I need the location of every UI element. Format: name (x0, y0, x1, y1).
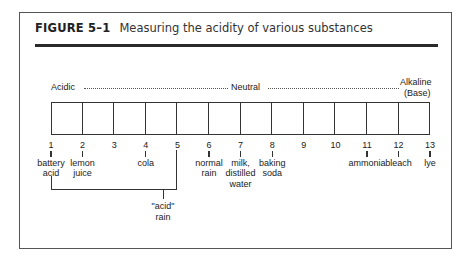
acid-rain-label-line2: rain (133, 212, 193, 223)
tick-mark (366, 151, 367, 157)
ph-tick-13: 13 lye (400, 140, 460, 168)
figure-title: FIGURE 5–1Measuring the acidity of vario… (35, 20, 373, 35)
ph-cell (114, 102, 146, 135)
ph-cell (83, 102, 115, 135)
ph-cell (272, 102, 304, 135)
ph-cell (335, 102, 367, 135)
tick-mark (398, 151, 399, 157)
acidic-dotted-line (84, 88, 228, 89)
ph-cell (51, 102, 83, 135)
ph-cell (209, 102, 241, 135)
ph-cell (241, 102, 273, 135)
tick-mark (240, 151, 241, 157)
ph-cell (399, 102, 431, 135)
alkaline-dotted-line (268, 88, 399, 89)
substance-label: water (211, 179, 271, 190)
acidic-label: Acidic (51, 82, 75, 92)
neutral-label: Neutral (231, 82, 260, 92)
tick-mark (272, 151, 273, 157)
base-label: (Base) (404, 88, 431, 98)
substance-label: lye (400, 158, 460, 169)
ph-cell (146, 102, 178, 135)
ph-cell (177, 102, 209, 135)
figure-caption: Measuring the acidity of various substan… (119, 21, 372, 35)
acid-rain-label: "acid" rain (133, 201, 193, 222)
tick-mark (429, 151, 430, 157)
title-rule (35, 44, 438, 47)
substance-label: baking (242, 158, 302, 169)
tick-mark (208, 151, 209, 157)
ph-scale-cells (51, 102, 430, 135)
substance-label: soda (242, 168, 302, 179)
acid-rain-bracket-tick (163, 190, 164, 199)
ph-number: 13 (400, 140, 460, 151)
ph-cell (304, 102, 336, 135)
alkaline-label: Alkaline (400, 77, 432, 87)
ph-cell (367, 102, 399, 135)
figure-label: FIGURE 5–1 (35, 21, 110, 35)
acid-rain-label-line1: "acid" (133, 201, 193, 212)
acid-rain-bracket (51, 150, 177, 190)
